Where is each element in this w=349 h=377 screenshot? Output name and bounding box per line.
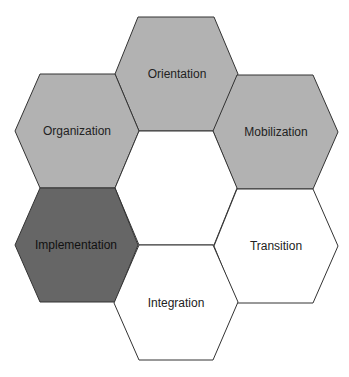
hex-integration: Integration xyxy=(114,245,238,360)
hex-orientation: Orientation xyxy=(115,17,238,131)
hex-center-shape xyxy=(115,131,237,245)
hex-integration-label: Integration xyxy=(148,296,205,310)
hexagon-diagram: Orientation Organization Mobilization Im… xyxy=(0,0,349,377)
hex-implementation-label: Implementation xyxy=(35,238,117,252)
hex-orientation-label: Orientation xyxy=(148,67,207,81)
hex-center xyxy=(115,131,237,245)
hex-mobilization: Mobilization xyxy=(213,75,338,189)
hex-transition: Transition xyxy=(214,189,338,303)
hex-organization-label: Organization xyxy=(43,124,111,138)
hex-implementation: Implementation xyxy=(15,188,138,302)
hex-mobilization-label: Mobilization xyxy=(244,125,307,139)
hex-transition-label: Transition xyxy=(250,239,302,253)
hex-organization: Organization xyxy=(15,74,139,188)
